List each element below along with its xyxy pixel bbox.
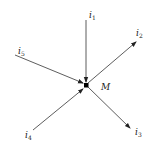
label-i4: i4	[25, 130, 32, 141]
label-i5: i5	[18, 46, 25, 57]
kirchhoff-node-diagram: i1 i2 i3 i4 i5 M	[0, 0, 152, 148]
node-dot	[84, 83, 89, 88]
node-label-m: M	[100, 82, 111, 92]
label-i3: i3	[135, 127, 142, 138]
current-i2-arrow	[88, 42, 136, 83]
current-i4-arrow	[33, 89, 83, 130]
current-i5-arrow	[15, 55, 83, 83]
label-i1: i1	[89, 10, 96, 21]
current-i3-arrow	[88, 87, 130, 128]
label-i2: i2	[136, 28, 143, 39]
